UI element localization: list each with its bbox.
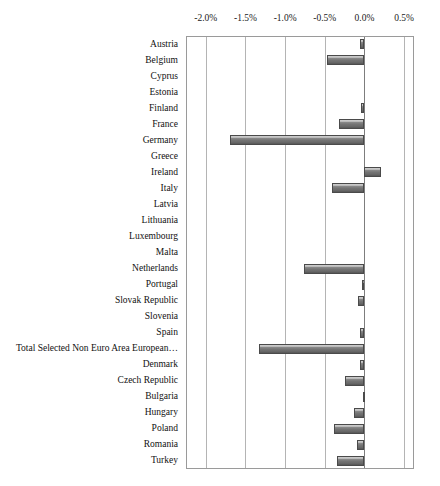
category-label: Austria xyxy=(150,39,178,50)
category-label: Lithuania xyxy=(142,215,178,226)
category-label: Turkey xyxy=(151,455,178,466)
category-label: Finland xyxy=(149,103,178,114)
bar xyxy=(354,408,364,418)
category-label: Ireland xyxy=(151,167,178,178)
category-label: Romania xyxy=(144,439,178,450)
category-label: Hungary xyxy=(145,407,178,418)
category-label: Spain xyxy=(156,327,178,338)
category-label: France xyxy=(152,119,178,130)
bar xyxy=(364,167,381,177)
category-label: Latvia xyxy=(154,199,178,210)
category-label: Total Selected Non Euro Area European… xyxy=(16,343,178,354)
category-label: Germany xyxy=(143,135,178,146)
x-axis-tick-labels: -2.0%-1.5%-1.0%-0.5%0.0%0.5% xyxy=(0,12,440,30)
category-label: Italy xyxy=(161,183,178,194)
category-label: Cyprus xyxy=(151,71,178,82)
footer-fragment xyxy=(8,474,188,484)
bar xyxy=(360,360,364,370)
bar-chart: -2.0%-1.5%-1.0%-0.5%0.0%0.5% AustriaBelg… xyxy=(0,0,440,486)
bar xyxy=(304,264,364,274)
bar xyxy=(363,392,365,402)
bars-layer xyxy=(186,36,414,469)
bar xyxy=(360,39,364,49)
category-label: Malta xyxy=(156,247,178,258)
bar xyxy=(339,119,364,129)
y-axis-category-labels: AustriaBelgiumCyprusEstoniaFinlandFrance… xyxy=(0,36,182,469)
x-tick-label: 0.0% xyxy=(342,12,386,24)
x-tick-label: -1.0% xyxy=(263,12,307,24)
category-label: Slovak Republic xyxy=(115,295,178,306)
bar xyxy=(360,328,365,338)
x-tick-label: -2.0% xyxy=(184,12,228,24)
category-label: Netherlands xyxy=(132,263,178,274)
bar xyxy=(362,280,364,290)
category-label: Slovenia xyxy=(145,311,178,322)
category-label: Belgium xyxy=(145,55,178,66)
category-label: Poland xyxy=(152,423,178,434)
bar xyxy=(357,440,365,450)
category-label: Greece xyxy=(151,151,178,162)
bar xyxy=(337,456,365,466)
x-tick-label: -1.5% xyxy=(223,12,267,24)
bar xyxy=(361,103,364,113)
category-label: Denmark xyxy=(143,359,178,370)
x-tick-label: 0.5% xyxy=(382,12,426,24)
category-label: Czech Republic xyxy=(118,375,178,386)
category-label: Estonia xyxy=(150,87,179,98)
bar xyxy=(334,424,364,434)
bar xyxy=(259,344,364,354)
bar xyxy=(345,376,365,386)
category-label: Portugal xyxy=(146,279,178,290)
category-label: Bulgaria xyxy=(145,391,178,402)
bar xyxy=(332,183,365,193)
category-label: Luxembourg xyxy=(129,231,178,242)
x-tick-label: -0.5% xyxy=(303,12,347,24)
bar xyxy=(327,55,364,65)
bar xyxy=(358,296,364,306)
bar xyxy=(230,135,364,145)
